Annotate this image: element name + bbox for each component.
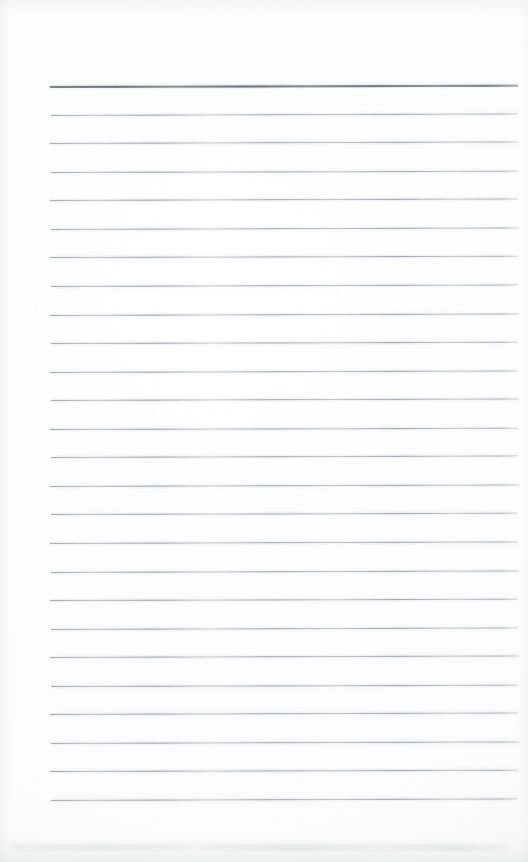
rule-line (51, 570, 519, 572)
rule-line (51, 113, 518, 116)
rule-line (51, 627, 518, 630)
rule-line (50, 427, 518, 429)
ruled-lines-group (0, 0, 528, 862)
rule-line (51, 170, 518, 172)
rule-line (51, 513, 518, 515)
rule-line (51, 456, 518, 459)
rule-line (50, 370, 518, 373)
rule-line (51, 227, 519, 229)
rule-line (51, 684, 518, 686)
scanned-page (0, 0, 528, 862)
rule-line (50, 770, 518, 772)
rule-line (50, 484, 519, 486)
rule-line (50, 656, 519, 658)
rule-line (51, 741, 519, 743)
header-rule-line (50, 85, 518, 88)
rule-line (50, 313, 519, 315)
rule-line (50, 541, 518, 544)
rule-line (50, 256, 518, 258)
rule-line (50, 713, 518, 716)
rule-line (51, 284, 518, 287)
rule-line (51, 399, 519, 401)
rule-line (50, 142, 519, 144)
rule-line (51, 342, 518, 344)
rule-line (51, 798, 518, 801)
rule-line (50, 199, 518, 202)
rule-line (50, 599, 518, 601)
